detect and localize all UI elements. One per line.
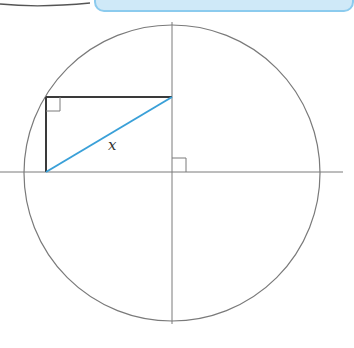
diagonal-x [46,97,172,172]
diagonal-label: x [108,136,117,154]
right-angle-marker-center [172,158,186,172]
right-angle-marker-rectangle [46,97,60,111]
header-curve-fragment [0,3,90,6]
